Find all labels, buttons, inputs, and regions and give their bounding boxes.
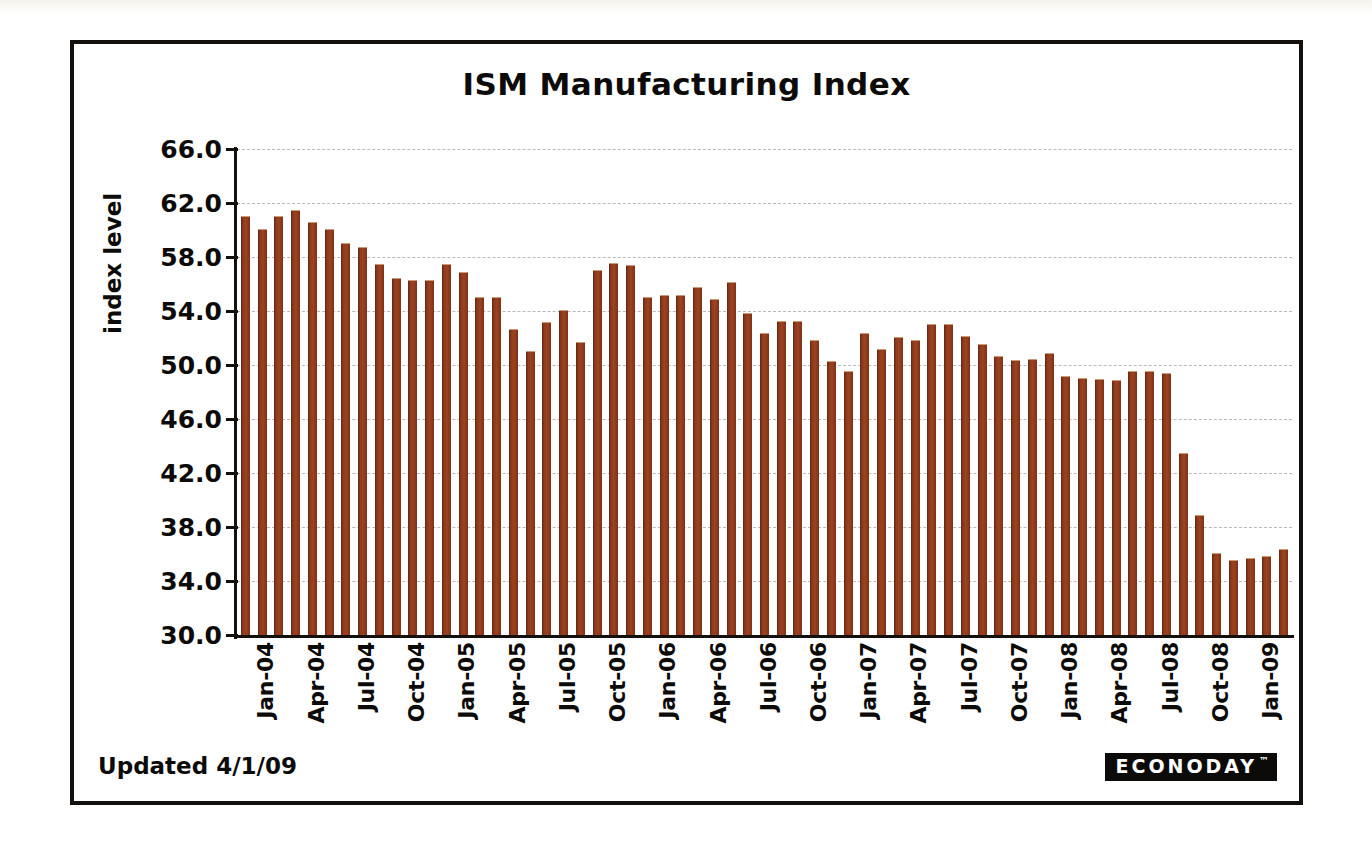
bar xyxy=(425,280,434,635)
x-axis-tick-label: Oct-07 xyxy=(1007,642,1032,722)
y-axis-tick-labels: 66.062.058.054.050.046.042.038.034.030.0 xyxy=(118,149,222,635)
bar xyxy=(1128,371,1137,635)
bar xyxy=(1045,353,1054,635)
bar xyxy=(626,265,635,635)
x-axis-tick-label: Oct-06 xyxy=(806,642,831,722)
bar xyxy=(860,333,869,635)
y-axis-tick-label: 34.0 xyxy=(122,567,222,596)
bar xyxy=(593,270,602,636)
bar xyxy=(1279,549,1288,635)
x-axis-tick-label: Jul-08 xyxy=(1158,642,1183,711)
bar xyxy=(978,344,987,635)
x-axis-tick-label: Jul-04 xyxy=(354,642,379,711)
y-axis-tick-label: 66.0 xyxy=(122,135,222,164)
x-axis-tick-label: Jan-05 xyxy=(454,642,479,719)
bar xyxy=(693,287,702,635)
y-axis-tick-label: 38.0 xyxy=(122,513,222,542)
y-axis-tick-label: 58.0 xyxy=(122,243,222,272)
bar xyxy=(258,229,267,635)
x-axis-tick-label: Apr-05 xyxy=(505,642,530,724)
x-axis-tick-label: Oct-08 xyxy=(1208,642,1233,722)
updated-label: Updated 4/1/09 xyxy=(98,753,297,779)
bar xyxy=(1262,556,1271,635)
y-axis-tick-label: 42.0 xyxy=(122,459,222,488)
bar xyxy=(743,313,752,635)
bar xyxy=(542,322,551,635)
x-axis-tick-label: Jan-09 xyxy=(1258,642,1283,719)
y-axis-tick-label: 46.0 xyxy=(122,405,222,434)
bar xyxy=(894,337,903,635)
bar xyxy=(459,272,468,635)
bar xyxy=(559,310,568,635)
bar xyxy=(375,264,384,635)
y-axis-tick-label: 62.0 xyxy=(122,189,222,218)
bar xyxy=(241,216,250,636)
x-axis-tick-labels: Jan-04Apr-04Jul-04Oct-04Jan-05Apr-05Jul-… xyxy=(237,642,1292,762)
x-axis-tick-label: Oct-05 xyxy=(605,642,630,722)
x-axis-tick-label: Jan-07 xyxy=(856,642,881,719)
x-axis-tick-label: Jul-05 xyxy=(555,642,580,711)
x-axis-line xyxy=(234,635,1294,638)
bar xyxy=(1179,453,1188,635)
bar xyxy=(1061,376,1070,635)
bar xyxy=(291,210,300,635)
trademark-symbol: ™ xyxy=(1259,756,1269,766)
x-axis-tick-label: Jul-07 xyxy=(957,642,982,711)
bar xyxy=(911,340,920,635)
x-axis-tick-label: Jan-04 xyxy=(253,642,278,719)
bar xyxy=(710,299,719,635)
x-axis-tick-label: Jan-06 xyxy=(655,642,680,719)
x-axis-tick-label: Apr-08 xyxy=(1107,642,1132,724)
bar xyxy=(475,297,484,636)
bar-series xyxy=(237,149,1292,635)
bar xyxy=(609,263,618,635)
bar xyxy=(408,280,417,635)
bar xyxy=(844,371,853,635)
x-axis-tick-label: Jul-06 xyxy=(756,642,781,711)
x-axis-tick-label: Jan-08 xyxy=(1057,642,1082,719)
x-axis-tick-label: Oct-04 xyxy=(404,642,429,722)
chart-card: ISM Manufacturing Index index level 66.0… xyxy=(70,40,1303,805)
plot-wrapper: index level 66.062.058.054.050.046.042.0… xyxy=(74,44,1299,801)
bar xyxy=(827,361,836,635)
x-axis-tick-label: Apr-07 xyxy=(906,642,931,724)
bar xyxy=(877,349,886,635)
econoday-wordmark: ECONODAY xyxy=(1115,757,1257,776)
bar xyxy=(1028,359,1037,635)
bar xyxy=(793,321,802,635)
scan-edge-tint xyxy=(0,0,1372,14)
bar xyxy=(961,336,970,635)
bar xyxy=(643,297,652,636)
bar xyxy=(308,222,317,635)
bar xyxy=(727,282,736,635)
bar xyxy=(660,295,669,635)
bar xyxy=(1078,378,1087,636)
bar xyxy=(760,333,769,635)
bar xyxy=(576,342,585,635)
bar xyxy=(274,216,283,636)
bar xyxy=(1246,558,1255,635)
bar xyxy=(1011,360,1020,635)
bar xyxy=(1229,560,1238,635)
bar xyxy=(1095,379,1104,635)
bar xyxy=(994,356,1003,635)
bar xyxy=(1162,373,1171,635)
bar xyxy=(1112,380,1121,635)
bar xyxy=(526,351,535,636)
bar xyxy=(1212,553,1221,635)
bar xyxy=(810,340,819,635)
y-axis-tick-label: 54.0 xyxy=(122,297,222,326)
bar xyxy=(442,264,451,635)
bar xyxy=(392,278,401,635)
y-axis-tick-label: 50.0 xyxy=(122,351,222,380)
bar xyxy=(944,324,953,636)
bar xyxy=(676,295,685,635)
bar xyxy=(1145,371,1154,635)
econoday-logo: ECONODAY™ xyxy=(1105,753,1277,781)
bar xyxy=(927,324,936,636)
bar xyxy=(509,329,518,635)
bar xyxy=(341,243,350,636)
bar xyxy=(1195,515,1204,635)
bar xyxy=(325,229,334,635)
bar xyxy=(358,247,367,635)
